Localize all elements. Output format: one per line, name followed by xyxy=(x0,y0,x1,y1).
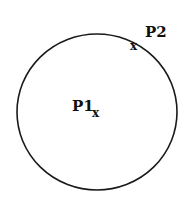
circle-diagram: P1 x P2 x xyxy=(0,0,193,201)
p2-marker: x xyxy=(130,39,138,53)
p1-marker: x xyxy=(92,106,100,120)
p1-label: P1 xyxy=(72,97,94,115)
p2-label: P2 xyxy=(145,23,167,41)
